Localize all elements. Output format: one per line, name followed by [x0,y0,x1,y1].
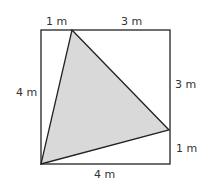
diagram-svg: 1 m 3 m 4 m 3 m 1 m 4 m [0,0,204,188]
label-left: 4 m [16,86,37,99]
label-right-lower: 1 m [176,142,197,155]
label-bottom: 4 m [94,168,115,181]
shaded-triangle [41,30,169,164]
diagram-canvas: 1 m 3 m 4 m 3 m 1 m 4 m [0,0,204,188]
label-top-left: 1 m [46,15,67,28]
label-top-right: 3 m [121,15,142,28]
label-right-upper: 3 m [175,78,196,91]
